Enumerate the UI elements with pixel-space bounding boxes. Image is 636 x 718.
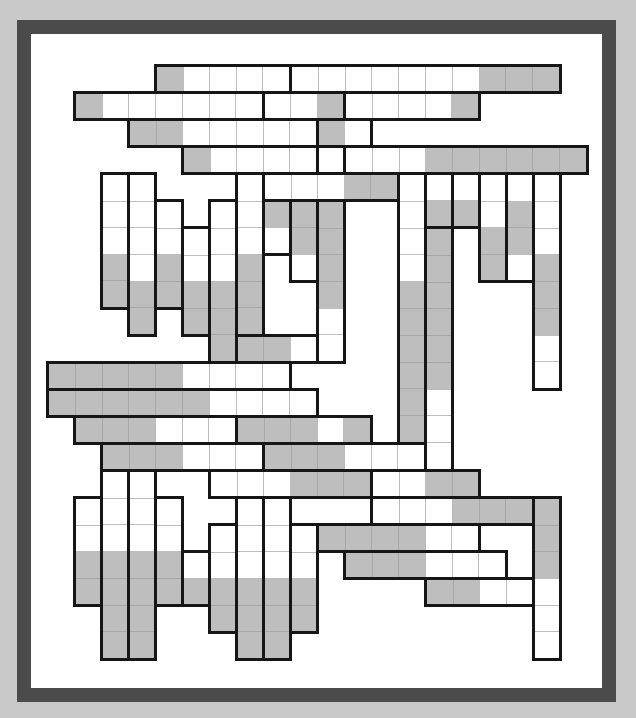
gray-cell[interactable] [292, 578, 316, 605]
gray-cell[interactable] [453, 580, 480, 604]
gray-cell[interactable] [49, 391, 75, 415]
gray-cell[interactable] [398, 553, 425, 577]
white-cell[interactable] [130, 254, 154, 281]
gray-cell[interactable] [130, 281, 154, 308]
gray-cell[interactable] [535, 499, 559, 525]
gray-cell[interactable] [130, 551, 154, 578]
white-cell[interactable] [535, 631, 559, 658]
white-cell[interactable] [262, 391, 289, 415]
gray-cell[interactable] [508, 201, 532, 228]
gray-cell[interactable] [238, 418, 264, 442]
white-cell[interactable] [346, 94, 372, 118]
white-cell[interactable] [319, 148, 343, 172]
white-cell[interactable] [157, 525, 181, 552]
gray-cell[interactable] [265, 202, 289, 227]
white-cell[interactable] [236, 391, 263, 415]
white-cell[interactable] [182, 364, 209, 388]
gray-cell[interactable] [76, 94, 102, 118]
white-cell[interactable] [265, 525, 289, 552]
white-cell[interactable] [236, 121, 263, 145]
gray-cell[interactable] [103, 578, 127, 605]
gray-cell[interactable] [535, 254, 559, 281]
white-cell[interactable] [103, 201, 127, 228]
white-cell[interactable] [265, 175, 291, 199]
gray-cell[interactable] [532, 148, 559, 172]
gray-cell[interactable] [535, 308, 559, 335]
white-cell[interactable] [211, 526, 235, 552]
gray-cell[interactable] [427, 229, 451, 255]
gray-cell[interactable] [157, 254, 181, 281]
white-cell[interactable] [130, 472, 154, 498]
white-cell[interactable] [535, 201, 559, 228]
white-cell[interactable] [262, 364, 289, 388]
white-cell[interactable] [128, 94, 155, 118]
white-cell[interactable] [452, 67, 479, 91]
white-cell[interactable] [425, 553, 452, 577]
white-cell[interactable] [427, 175, 451, 200]
white-cell[interactable] [238, 175, 262, 201]
gray-cell[interactable] [265, 578, 289, 605]
gray-cell[interactable] [452, 499, 479, 523]
white-cell[interactable] [184, 229, 208, 255]
white-cell[interactable] [371, 67, 398, 91]
white-cell[interactable] [155, 94, 182, 118]
white-cell[interactable] [478, 553, 505, 577]
white-cell[interactable] [103, 175, 127, 201]
gray-cell[interactable] [400, 362, 424, 389]
gray-cell[interactable] [238, 578, 262, 605]
white-cell[interactable] [103, 472, 127, 498]
white-cell[interactable] [319, 308, 343, 335]
white-cell[interactable] [479, 580, 506, 604]
white-cell[interactable] [399, 148, 426, 172]
white-cell[interactable] [182, 121, 209, 145]
gray-cell[interactable] [400, 388, 424, 415]
white-cell[interactable] [506, 580, 533, 604]
white-cell[interactable] [317, 175, 344, 199]
gray-cell[interactable] [103, 445, 129, 469]
white-cell[interactable] [399, 472, 426, 496]
white-cell[interactable] [451, 526, 478, 550]
gray-cell[interactable] [559, 148, 586, 172]
white-cell[interactable] [235, 445, 262, 469]
gray-cell[interactable] [427, 282, 451, 309]
gray-cell[interactable] [238, 254, 262, 281]
white-cell[interactable] [102, 94, 129, 118]
gray-cell[interactable] [211, 281, 235, 308]
white-cell[interactable] [76, 525, 100, 552]
white-cell[interactable] [344, 121, 370, 145]
white-cell[interactable] [76, 499, 100, 525]
white-cell[interactable] [535, 361, 559, 388]
white-cell[interactable] [263, 148, 290, 172]
white-cell[interactable] [535, 335, 559, 362]
gray-cell[interactable] [343, 418, 370, 442]
gray-cell[interactable] [182, 391, 209, 415]
white-cell[interactable] [535, 578, 559, 605]
gray-cell[interactable] [238, 337, 263, 361]
gray-cell[interactable] [292, 227, 316, 253]
gray-cell[interactable] [264, 418, 291, 442]
gray-cell[interactable] [103, 551, 127, 578]
gray-cell[interactable] [155, 391, 182, 415]
gray-cell[interactable] [370, 175, 397, 199]
gray-cell[interactable] [76, 418, 102, 442]
white-cell[interactable] [427, 389, 451, 416]
gray-cell[interactable] [184, 308, 208, 335]
gray-cell[interactable] [102, 391, 129, 415]
white-cell[interactable] [289, 121, 316, 145]
gray-cell[interactable] [427, 308, 451, 335]
gray-cell[interactable] [129, 445, 156, 469]
gray-cell[interactable] [400, 335, 424, 362]
white-cell[interactable] [155, 418, 182, 442]
gray-cell[interactable] [130, 578, 154, 605]
white-cell[interactable] [481, 201, 505, 228]
white-cell[interactable] [399, 499, 426, 523]
white-cell[interactable] [344, 445, 371, 469]
white-cell[interactable] [319, 334, 343, 361]
gray-cell[interactable] [102, 418, 129, 442]
white-cell[interactable] [211, 254, 235, 281]
white-cell[interactable] [265, 94, 290, 118]
gray-cell[interactable] [265, 605, 289, 632]
gray-cell[interactable] [130, 307, 154, 334]
gray-cell[interactable] [102, 364, 129, 388]
gray-cell[interactable] [291, 445, 318, 469]
